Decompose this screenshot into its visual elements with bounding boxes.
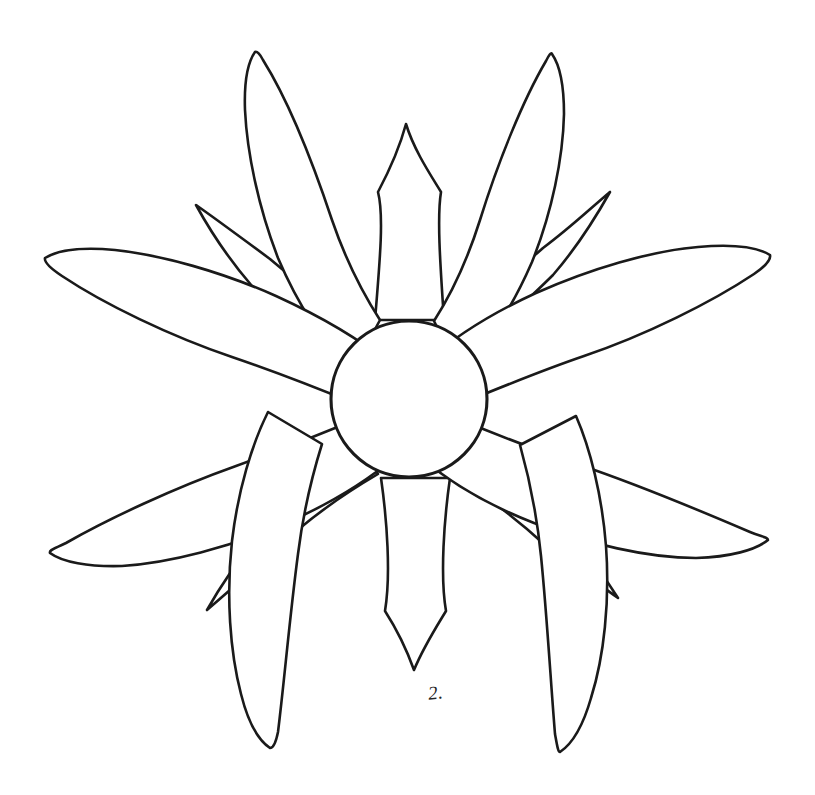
petal-bottom-right-large	[520, 416, 607, 752]
petal-bottom-center-narrow	[381, 478, 450, 670]
flower-line-drawing	[0, 0, 815, 795]
coloring-page-canvas: 2.	[0, 0, 815, 795]
handwritten-page-number: 2.	[427, 681, 444, 704]
petal-top-center-narrow	[375, 124, 444, 320]
flower-center-disc	[331, 321, 487, 477]
